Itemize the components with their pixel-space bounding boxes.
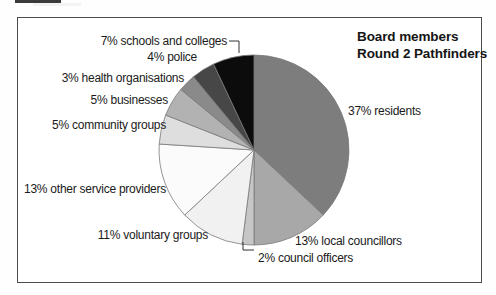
page: Board members Round 2 Pathfinders 37% re… <box>0 0 496 295</box>
pie-label-community-groups: 5% community groups <box>52 118 166 132</box>
pie-label-voluntary-groups: 11% voluntary groups <box>98 228 208 242</box>
pie-label-police: 4% police <box>147 50 197 64</box>
pie-label-health-organisations: 3% health organisations <box>62 71 184 85</box>
pie-label-council-officers: 2% council officers <box>258 251 353 265</box>
pie-label-local-councillors: 13% local councillors <box>295 234 402 248</box>
pie-label-schools-and-colleges: 7% schools and colleges <box>101 34 227 48</box>
pie-label-businesses: 5% businesses <box>91 93 168 107</box>
pie-labels-layer: 37% residents13% local councillors2% cou… <box>0 0 496 295</box>
pie-label-other-service-providers: 13% other service providers <box>24 182 166 196</box>
pie-label-residents: 37% residents <box>348 104 421 118</box>
